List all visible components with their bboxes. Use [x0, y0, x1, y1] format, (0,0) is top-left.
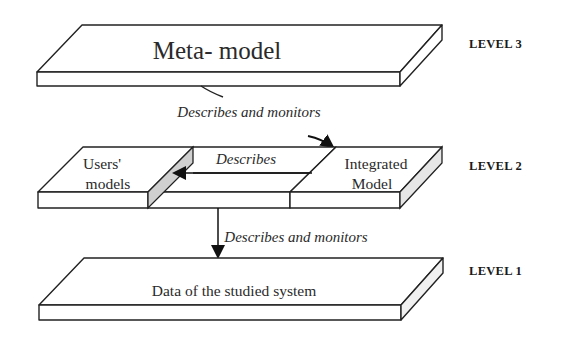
level3-front-face [37, 72, 400, 86]
describes-monitors-upper-label: Describes and monitors [176, 104, 320, 120]
level2-label: LEVEL 2 [469, 159, 522, 173]
integrated-label-line1: Integrated [345, 155, 408, 172]
integrated-label-line2: Model [352, 175, 392, 192]
arrow-meta-to-integrated [308, 136, 333, 147]
users-label-line1: Users' [83, 155, 121, 172]
level3-label: LEVEL 3 [469, 37, 522, 51]
meta-model-label: Meta- model [153, 37, 281, 64]
data-studied-system-label: Data of the studied system [152, 282, 316, 299]
level1-front-face [39, 305, 401, 320]
users-label-line2: models [86, 175, 131, 192]
three-level-diagram: Meta- model LEVEL 3 Describes and monito… [0, 0, 565, 346]
describes-label: Describes [215, 151, 276, 167]
level2-slab: Users' models Integrated Model Describes [38, 147, 442, 208]
level2-middle-front [148, 192, 290, 208]
describes-monitors-lower-label: Describes and monitors [223, 229, 367, 245]
level3-slab: Meta- model [37, 25, 442, 86]
level1-slab: Data of the studied system [39, 258, 443, 320]
level1-label: LEVEL 1 [469, 264, 522, 278]
level3-connector [201, 86, 223, 97]
users-models-front [38, 192, 148, 208]
integrated-model-front [290, 192, 400, 208]
